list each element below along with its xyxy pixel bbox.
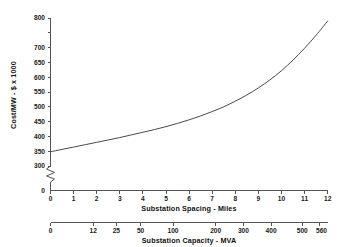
secondary-x-tick-label: 100 bbox=[167, 227, 178, 234]
chart-figure: 800 700 650 600 550 500 450 400 350 300 … bbox=[0, 0, 341, 247]
y-tick-label: 500 bbox=[34, 103, 45, 110]
chart-svg: 800 700 650 600 550 500 450 400 350 300 … bbox=[0, 0, 341, 247]
y-tick-label: 650 bbox=[34, 59, 45, 66]
x-axis-title: Substation Spacing - Miles bbox=[141, 204, 236, 213]
secondary-x-tick-label: 300 bbox=[238, 227, 249, 234]
secondary-x-axis-title: Substation Capacity - MVA bbox=[142, 236, 237, 245]
x-tick-label: 9 bbox=[257, 195, 261, 202]
x-tick-label: 3 bbox=[118, 195, 122, 202]
y-tick-label: 350 bbox=[34, 148, 45, 155]
x-tick-label: 5 bbox=[164, 195, 168, 202]
y-axis-origin-label: 0 bbox=[41, 187, 45, 194]
x-tick-label: 6 bbox=[187, 195, 191, 202]
x-tick-label: 2 bbox=[95, 195, 99, 202]
x-tick-label: 11 bbox=[301, 195, 308, 202]
x-tick-label: 1 bbox=[72, 195, 76, 202]
secondary-x-tick-label: 500 bbox=[297, 227, 308, 234]
x-tick-label: 8 bbox=[233, 195, 237, 202]
secondary-x-tick-label: 560 bbox=[316, 227, 327, 234]
y-tick-label: 300 bbox=[34, 162, 45, 169]
y-tick-label: 700 bbox=[34, 44, 45, 51]
secondary-x-tick-label: 12 bbox=[90, 227, 98, 234]
x-tick-label: 7 bbox=[210, 195, 214, 202]
y-tick-label: 450 bbox=[34, 118, 45, 125]
x-tick-label: 10 bbox=[278, 195, 286, 202]
x-tick-label: 12 bbox=[324, 195, 332, 202]
secondary-x-tick-label: 400 bbox=[266, 227, 277, 234]
secondary-x-tick-label: 50 bbox=[137, 227, 145, 234]
x-tick-label: 4 bbox=[141, 195, 145, 202]
secondary-x-tick-label: 200 bbox=[210, 227, 221, 234]
x-tick-label: 0 bbox=[49, 195, 53, 202]
secondary-x-tick-label: 0 bbox=[49, 227, 53, 234]
y-axis-title: Cost/MW - $ x 1000 bbox=[9, 61, 18, 129]
y-tick-label: 800 bbox=[34, 14, 45, 21]
y-tick-label: 400 bbox=[34, 133, 45, 140]
y-tick-label: 550 bbox=[34, 88, 45, 95]
secondary-x-tick-label: 25 bbox=[113, 227, 121, 234]
y-tick-label: 600 bbox=[34, 74, 45, 81]
